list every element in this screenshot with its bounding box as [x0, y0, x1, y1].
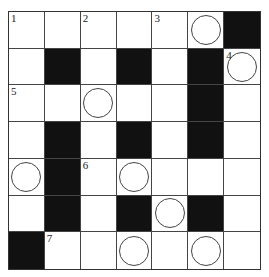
crossword-cell[interactable] [152, 122, 188, 159]
crossword-cell[interactable]: 3 [152, 12, 188, 49]
crossword-cell[interactable] [152, 85, 188, 122]
circle-marker-icon [119, 236, 149, 266]
crossword-cell[interactable] [81, 49, 117, 86]
circle-marker-icon [83, 88, 113, 118]
crossword-grid: 1234567 [8, 11, 261, 270]
black-cell [188, 122, 224, 159]
circle-marker-icon [191, 236, 221, 266]
crossword-cell[interactable] [188, 12, 224, 49]
black-cell [45, 49, 81, 86]
crossword-cell[interactable] [224, 196, 260, 233]
crossword-cell[interactable] [152, 196, 188, 233]
black-cell [45, 122, 81, 159]
black-cell [9, 232, 45, 269]
circle-marker-icon [11, 162, 41, 192]
crossword-cell[interactable] [117, 232, 153, 269]
crossword-cell[interactable] [188, 232, 224, 269]
clue-number: 3 [154, 12, 160, 24]
clue-number: 1 [11, 12, 17, 24]
crossword-cell[interactable] [117, 159, 153, 196]
crossword-cell[interactable] [9, 196, 45, 233]
crossword-cell[interactable] [152, 159, 188, 196]
crossword-cell[interactable]: 5 [9, 85, 45, 122]
crossword-cell[interactable] [45, 12, 81, 49]
crossword-cell[interactable] [152, 232, 188, 269]
black-cell [188, 49, 224, 86]
clue-number: 6 [83, 159, 89, 171]
crossword-cell[interactable] [81, 85, 117, 122]
black-cell [224, 12, 260, 49]
crossword-cell[interactable] [224, 122, 260, 159]
crossword-cell[interactable] [81, 122, 117, 159]
black-cell [45, 159, 81, 196]
crossword-cell[interactable]: 1 [9, 12, 45, 49]
circle-marker-icon [191, 15, 221, 45]
black-cell [188, 196, 224, 233]
crossword-cell[interactable]: 2 [81, 12, 117, 49]
crossword-cell[interactable]: 4 [224, 49, 260, 86]
crossword-cell[interactable]: 6 [81, 159, 117, 196]
black-cell [117, 49, 153, 86]
crossword-cell[interactable] [117, 85, 153, 122]
crossword-cell[interactable] [188, 159, 224, 196]
circle-marker-icon [155, 198, 185, 228]
crossword-cell[interactable] [224, 85, 260, 122]
crossword-cell[interactable] [45, 85, 81, 122]
crossword-cell[interactable] [81, 232, 117, 269]
crossword-cell[interactable]: 7 [45, 232, 81, 269]
crossword-cell[interactable] [152, 49, 188, 86]
crossword-cell[interactable] [224, 159, 260, 196]
clue-number: 5 [11, 85, 17, 97]
crossword-cell[interactable] [9, 49, 45, 86]
circle-marker-icon [227, 52, 257, 82]
crossword-cell[interactable] [9, 122, 45, 159]
crossword-cell[interactable] [224, 232, 260, 269]
clue-number: 7 [47, 232, 53, 244]
black-cell [117, 122, 153, 159]
crossword-cell[interactable] [81, 196, 117, 233]
clue-number: 2 [83, 12, 89, 24]
black-cell [45, 196, 81, 233]
crossword-cell[interactable] [9, 159, 45, 196]
circle-marker-icon [119, 162, 149, 192]
black-cell [188, 85, 224, 122]
crossword-cell[interactable] [117, 12, 153, 49]
black-cell [117, 196, 153, 233]
